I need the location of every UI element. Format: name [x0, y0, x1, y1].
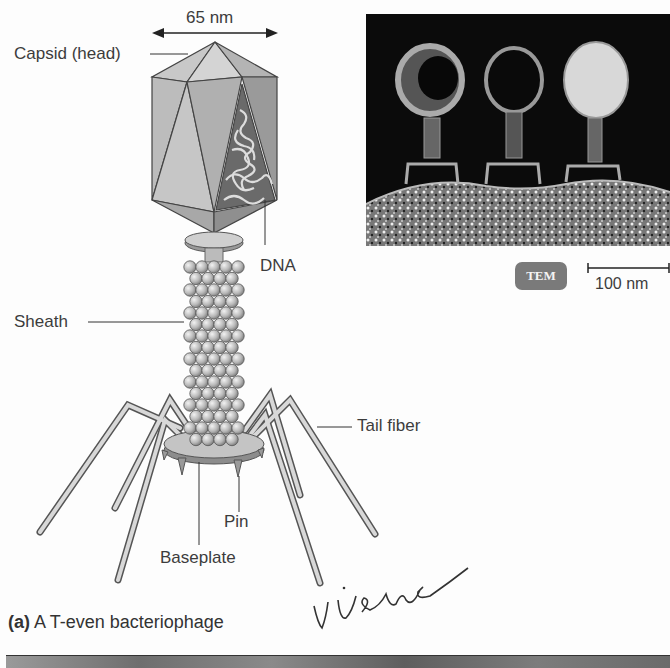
- collar: [185, 232, 243, 262]
- tail-fiber-label: Tail fiber: [357, 416, 420, 436]
- dimension-arrow: [152, 28, 278, 38]
- baseplate-label: Baseplate: [160, 548, 236, 568]
- dimension-label: 65 nm: [186, 8, 233, 28]
- dna-label: DNA: [260, 256, 296, 276]
- caption-text: A T-even bacteriophage: [30, 612, 224, 632]
- tem-badge: TEM: [515, 262, 567, 290]
- tem-micrograph: [366, 14, 670, 246]
- capsid-label: Capsid (head): [14, 44, 121, 64]
- figure-caption: (a) A T-even bacteriophage: [8, 612, 224, 633]
- scale-bar-label: 100 nm: [595, 275, 648, 293]
- handwritten-annotation: [300, 560, 500, 632]
- caption-part: (a): [8, 612, 30, 632]
- sheath-shape: [184, 261, 244, 446]
- next-figure-strip: [6, 655, 670, 668]
- pin-label: Pin: [224, 512, 249, 532]
- capsid-shape: [152, 42, 277, 233]
- sheath-label: Sheath: [14, 312, 68, 332]
- scale-bar: [587, 262, 670, 274]
